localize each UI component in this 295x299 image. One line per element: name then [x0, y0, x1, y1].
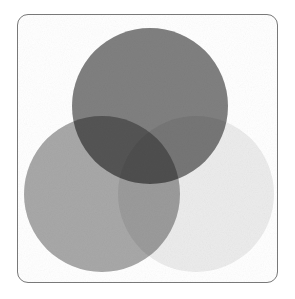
- venn-circle-right: [118, 116, 274, 272]
- venn-diagram-canvas: [0, 0, 295, 299]
- venn-sets-group: [24, 28, 274, 272]
- venn-figure: Three overlapping grayscale circles form…: [0, 0, 295, 299]
